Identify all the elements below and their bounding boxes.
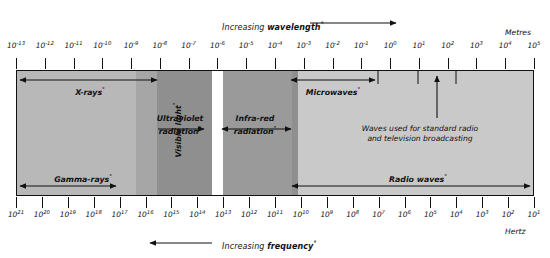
bottom-tick-mark-3 (94, 197, 95, 208)
bottom-tick-mark-20 (534, 197, 535, 208)
bottom-tick-mark-2 (68, 197, 69, 208)
bottom-tick-label-16: 105 (424, 209, 437, 219)
bottom-tick-mark-9 (249, 197, 250, 208)
infra-red-line1: Infra-red (236, 114, 275, 123)
bottom-tick-label-5: 1016 (137, 209, 153, 219)
bottom-tick-mark-4 (120, 197, 121, 208)
bottom-tick-label-11: 1010 (293, 209, 309, 219)
bottom-tick-mark-14 (379, 197, 380, 208)
bottom-tick-mark-1 (42, 197, 43, 208)
microwaves-text: Microwaves (306, 88, 358, 97)
bottom-tick-mark-0 (16, 197, 17, 208)
bottom-tick-label-0: 1021 (8, 209, 24, 219)
microwaves-degree: ° (357, 86, 360, 92)
bottom-tick-label-13: 108 (346, 209, 359, 219)
bottom-tick-mark-5 (146, 197, 147, 208)
infra-red-line2: radiation (234, 126, 274, 135)
bottom-tick-label-2: 1019 (60, 209, 76, 219)
band-label-gamma-rays: Gamma-rays° (54, 172, 112, 184)
bottom-tick-mark-12 (327, 197, 328, 208)
bottom-tick-label-12: 109 (320, 209, 333, 219)
bottom-tick-label-14: 107 (372, 209, 385, 219)
bottom-tick-mark-15 (405, 197, 406, 208)
x-rays-degree: ° (102, 86, 105, 92)
bottom-tick-label-6: 1015 (163, 209, 179, 219)
broadcasting-annotation: Waves used for standard radio and televi… (362, 124, 478, 144)
bottom-tick-label-8: 1013 (215, 209, 231, 219)
gamma-rays-degree: ° (109, 173, 112, 179)
bottom-tick-label-17: 104 (450, 209, 463, 219)
band-label-radio-waves: Radio waves° (389, 172, 447, 184)
bottom-tick-label-10: 1011 (267, 209, 283, 219)
bottom-tick-label-7: 1014 (189, 209, 205, 219)
broadcasting-annotation-line2: and television broadcasting (367, 134, 472, 143)
bottom-tick-mark-6 (171, 197, 172, 208)
band-label-x-rays: X-rays° (75, 85, 105, 97)
broadcasting-annotation-line1: Waves used for standard radio (362, 124, 478, 133)
band-label-microwaves: Microwaves° (306, 85, 360, 97)
bottom-tick-label-15: 106 (398, 209, 411, 219)
bottom-tick-label-19: 102 (502, 209, 515, 219)
bottom-tick-label-1: 1020 (34, 209, 50, 219)
infra-red-degree: ° (274, 125, 277, 131)
bottom-tick-label-4: 1017 (112, 209, 128, 219)
band-label-infra-red: Infra-red radiation° (234, 114, 277, 136)
bottom-tick-mark-11 (301, 197, 302, 208)
bottom-tick-label-18: 103 (476, 209, 489, 219)
bottom-tick-mark-16 (430, 197, 431, 208)
band-label-visible-light: Visible light° (171, 95, 183, 165)
bottom-tick-mark-17 (456, 197, 457, 208)
em-spectrum-diagram: Increasing wavelength° Increasing freque… (0, 0, 550, 258)
gamma-rays-text: Gamma-rays (54, 175, 109, 184)
ultraviolet-degree: ° (199, 125, 202, 131)
radio-waves-degree: ° (444, 173, 447, 179)
bottom-tick-label-20: 101 (528, 209, 541, 219)
bottom-tick-label-3: 1018 (86, 209, 102, 219)
visible-light-text: Visible light (174, 105, 183, 157)
bottom-tick-mark-7 (197, 197, 198, 208)
visible-light-degree: ° (172, 103, 178, 106)
radio-waves-text: Radio waves (389, 175, 444, 184)
bottom-tick-mark-10 (275, 197, 276, 208)
bottom-tick-mark-18 (482, 197, 483, 208)
bottom-tick-mark-13 (353, 197, 354, 208)
x-rays-text: X-rays (75, 88, 102, 97)
bottom-tick-label-9: 1012 (241, 209, 257, 219)
bottom-tick-mark-8 (223, 197, 224, 208)
bottom-tick-mark-19 (508, 197, 509, 208)
